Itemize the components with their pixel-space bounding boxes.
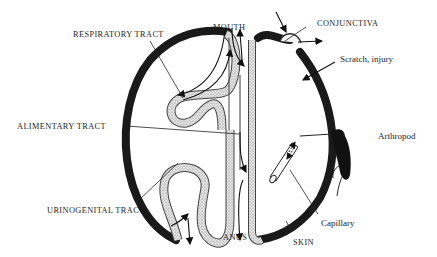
label-arthropod: Arthropod <box>378 131 416 141</box>
capillary <box>269 142 298 184</box>
skin-right <box>258 35 333 240</box>
label-capillary: Capillary <box>321 218 355 228</box>
proboscis <box>300 134 332 136</box>
urinogenital-tract <box>164 130 230 243</box>
label-respiratory-tract: RESPIRATORY TRACT <box>73 30 164 39</box>
label-mouth: MOUTH <box>213 23 245 32</box>
label-anus: ANUS <box>223 233 247 242</box>
label-alimentary-tract: ALIMENTARY TRACT <box>17 122 106 131</box>
label-conjunctiva: CONJUNCTIVA <box>317 19 378 28</box>
alimentary-tract-right <box>252 40 262 241</box>
label-skin: SKIN <box>293 238 314 247</box>
label-urinogenital-tract: URINOGENITAL TRACT <box>47 206 145 215</box>
label-scratch-injury: Scratch, injury <box>340 54 393 64</box>
infection-routes-diagram: MOUTH CONJUNCTIVA RESPIRATORY TRACT Scra… <box>0 0 437 257</box>
